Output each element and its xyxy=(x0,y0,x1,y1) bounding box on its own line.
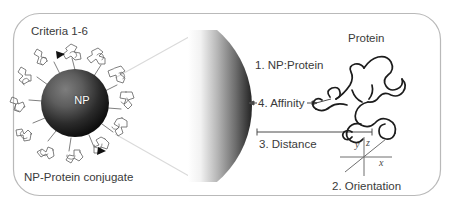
distance-arrow xyxy=(257,129,372,136)
callout-affinity: 4. Affinity xyxy=(258,98,304,110)
callout-distance: 3. Distance xyxy=(259,139,317,151)
callout-orientation: 2. Orientation xyxy=(332,181,401,193)
magnified-sphere xyxy=(188,30,258,182)
magnifier-cone xyxy=(115,33,196,180)
panel-title: Criteria 1-6 xyxy=(31,26,88,38)
protein-structure xyxy=(313,57,405,143)
conjugate-caption: NP-Protein conjugate xyxy=(24,172,133,184)
figure-canvas: Criteria 1-6 NP NP-Protein conjugate 1. … xyxy=(0,0,455,212)
np-core-label: NP xyxy=(62,95,102,106)
axis-label-x: x xyxy=(379,158,383,168)
callout-np-protein-ratio: 1. NP:Protein xyxy=(255,60,323,72)
axis-label-y: y xyxy=(355,140,359,150)
axis-label-z: z xyxy=(366,138,370,148)
protein-caption: Protein xyxy=(348,33,384,45)
